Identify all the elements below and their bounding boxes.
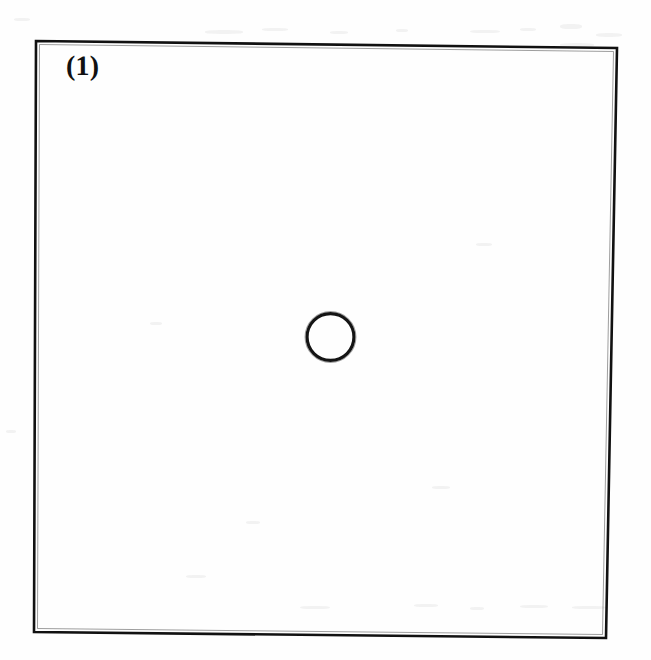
panel-label: (1) — [66, 52, 99, 80]
figure-drawing-surface — [0, 0, 651, 660]
center-circle-marker-ghost — [305, 312, 356, 363]
center-circle-marker — [307, 314, 354, 361]
panel-frame-ghost — [38, 45, 614, 635]
panel-frame — [34, 41, 617, 638]
scanned-figure-page: (1) — [0, 0, 651, 660]
